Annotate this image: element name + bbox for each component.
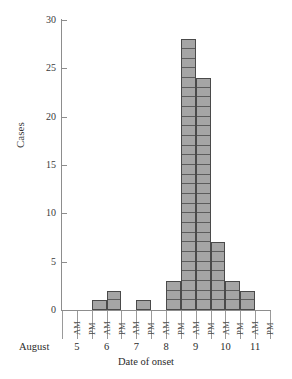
y-tick-label: 15 (24, 160, 56, 170)
bar (196, 78, 211, 310)
bar (136, 300, 151, 310)
bar-rect (92, 300, 107, 310)
bar-rect (225, 281, 240, 310)
bar (107, 291, 122, 310)
y-tick-label: 10 (24, 208, 56, 218)
am-pm-label: AM (103, 321, 112, 335)
bar (225, 281, 240, 310)
bar (240, 291, 255, 310)
am-pm-label: PM (177, 322, 186, 335)
bar-series (62, 20, 270, 310)
bar (181, 39, 196, 310)
x-axis-title: Date of onset (0, 356, 292, 367)
am-pm-label: AM (222, 321, 231, 335)
bar-rect (136, 300, 151, 310)
bar-unit-gridlines (212, 243, 225, 309)
bar-unit-gridlines (108, 292, 121, 309)
am-pm-label: AM (132, 321, 141, 335)
bar-rect (240, 291, 255, 310)
bar-rect (196, 78, 211, 310)
y-axis-title: Cases (14, 122, 26, 148)
date-label: 11 (245, 341, 265, 353)
am-pm-label: AM (251, 321, 260, 335)
am-pm-label: PM (147, 322, 156, 335)
bar-unit-gridlines (93, 301, 106, 309)
y-tick-label: 0 (24, 305, 56, 315)
bar-unit-gridlines (182, 40, 195, 309)
bar-rect (166, 281, 181, 310)
y-tick-label: 30 (24, 15, 56, 25)
bar-unit-gridlines (241, 292, 254, 309)
bar (166, 281, 181, 310)
month-label: August (19, 341, 49, 353)
am-pm-label: PM (207, 322, 216, 335)
epidemic-curve-chart: 051015202530 Cases AMPMAMPMAMPMAMPMAMPMA… (0, 0, 292, 379)
bar-rect (107, 291, 122, 310)
bar (92, 300, 107, 310)
am-pm-tick-band: AMPMAMPMAMPMAMPMAMPMAMPMAMPM (62, 311, 271, 339)
am-pm-label: AM (192, 321, 201, 335)
date-tick-labels: August 567891011 (0, 341, 292, 355)
date-label: 10 (215, 341, 235, 353)
bar-unit-gridlines (137, 301, 150, 309)
bar-unit-gridlines (167, 282, 180, 309)
date-label: 5 (67, 341, 87, 353)
bar-rect (211, 242, 226, 310)
bar-unit-gridlines (197, 79, 210, 309)
am-pm-label: AM (162, 321, 171, 335)
y-tick-label: 25 (24, 63, 56, 73)
am-pm-label: PM (266, 322, 275, 335)
date-label: 8 (156, 341, 176, 353)
am-pm-label: PM (88, 322, 97, 335)
date-label: 9 (186, 341, 206, 353)
date-label: 7 (126, 341, 146, 353)
date-label: 6 (97, 341, 117, 353)
y-tick-label: 5 (24, 257, 56, 267)
am-pm-label: AM (73, 321, 82, 335)
am-pm-separator (62, 311, 63, 339)
am-pm-label: PM (236, 322, 245, 335)
bar-rect (181, 39, 196, 310)
bar-unit-gridlines (226, 282, 239, 309)
am-pm-label: PM (118, 322, 127, 335)
y-tick-label: 20 (24, 112, 56, 122)
bar (211, 242, 226, 310)
